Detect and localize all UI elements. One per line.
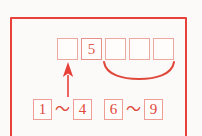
- range-2-end-box[interactable]: 9: [144, 99, 163, 120]
- range-group-1-4: 1 ～ 4: [33, 99, 92, 120]
- range-group-6-9: 6 ～ 9: [104, 99, 163, 120]
- range-2-separator: ～: [125, 102, 142, 117]
- figure-canvas: 5 1 ～ 4 6 ～ 9: [0, 0, 202, 136]
- range-2-start-box[interactable]: 6: [104, 99, 123, 120]
- answer-box-1[interactable]: [57, 38, 78, 60]
- underbrace-curve-icon: [103, 61, 175, 81]
- range-row: 1 ～ 4 6 ～ 9: [33, 99, 163, 120]
- answer-box-5[interactable]: [153, 38, 174, 60]
- answer-box-row: 5: [57, 38, 174, 60]
- answer-box-2[interactable]: 5: [81, 38, 102, 60]
- range-1-separator: ～: [54, 102, 71, 117]
- range-1-end-box[interactable]: 4: [73, 99, 92, 120]
- up-arrow-icon: [58, 62, 78, 98]
- answer-box-3[interactable]: [105, 38, 126, 60]
- range-1-start-box[interactable]: 1: [33, 99, 52, 120]
- answer-box-4[interactable]: [129, 38, 150, 60]
